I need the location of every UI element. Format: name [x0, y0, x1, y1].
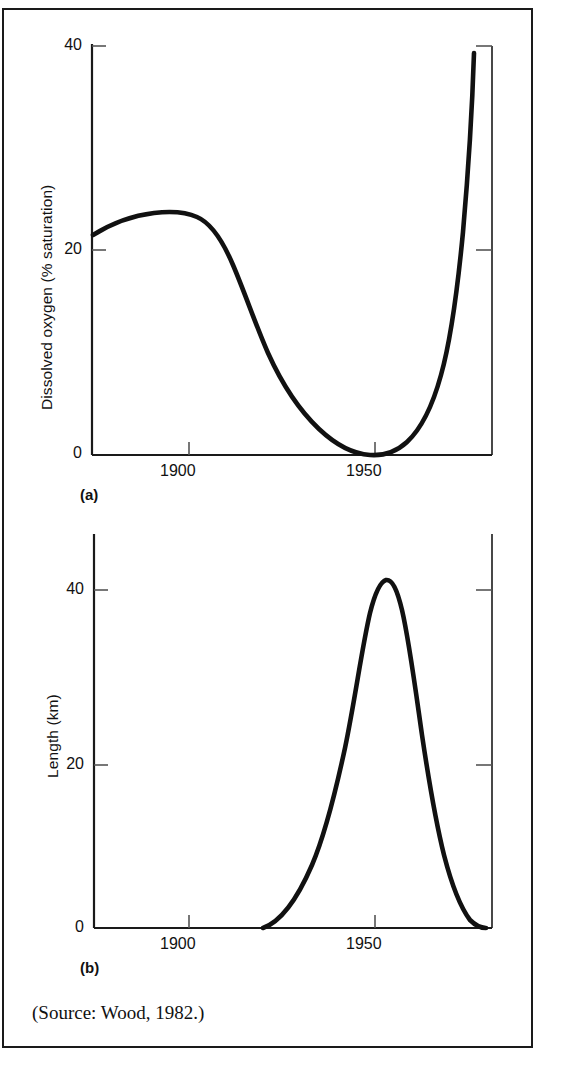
chart-a-data-line — [93, 53, 474, 455]
chart-a-ytick-label-20: 20 — [44, 240, 82, 258]
chart-b-ytick-label-40: 40 — [46, 580, 84, 598]
chart-a-plot — [4, 10, 535, 510]
chart-a-ytick-label-0: 0 — [44, 444, 82, 462]
chart-panel-b: Length (km) 40 20 0 1900 1950 (b) — [4, 510, 535, 980]
chart-b-ytick-label-20: 20 — [46, 755, 84, 773]
chart-b-panel-tag: (b) — [80, 959, 99, 976]
figure-frame: Dissolved oxygen (% saturation) 40 20 0 … — [2, 8, 533, 1048]
chart-panel-a: Dissolved oxygen (% saturation) 40 20 0 … — [4, 10, 535, 510]
chart-a-ytick-label-40: 40 — [44, 36, 82, 54]
chart-b-ytick-label-0: 0 — [46, 918, 84, 936]
chart-a-panel-tag: (a) — [80, 486, 98, 503]
chart-a-xtick-label-1900: 1900 — [160, 462, 196, 480]
chart-a-y-axis-label: Dissolved oxygen (% saturation) — [38, 185, 56, 410]
chart-b-xtick-label-1900: 1900 — [160, 935, 196, 953]
chart-b-data-line — [263, 580, 486, 928]
chart-a-xtick-label-1950: 1950 — [346, 462, 382, 480]
chart-b-xtick-label-1950: 1950 — [346, 935, 382, 953]
source-note: (Source: Wood, 1982.) — [32, 1002, 204, 1024]
